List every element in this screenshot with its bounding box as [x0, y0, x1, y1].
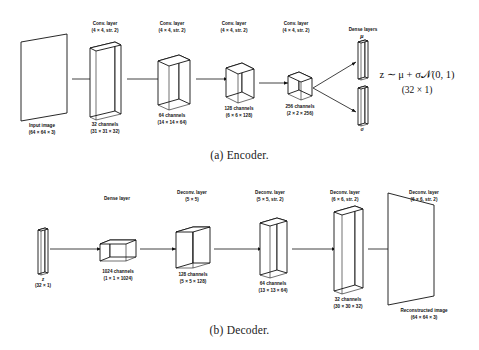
decoder-op-label-2-line1: Deconv. layer [177, 190, 207, 195]
encoder-shape-128-channels [226, 63, 254, 103]
encoder-op-label-1: Conv. layer (4 × 4, str. 2) [92, 21, 119, 34]
decoder-op-label-3-line2: (5 × 5, str. 2) [255, 197, 285, 204]
encoder-shape-mu-dense [358, 40, 368, 80]
latent-sampling-equation: z ∼ μ + σ𝒩(0, 1) (32 × 1) [379, 67, 454, 97]
decoder-tensor-label-output-line1: Reconstructed image [400, 308, 447, 313]
encoder-op-label-1-line2: (4 × 4, str. 2) [92, 28, 119, 35]
decoder-diagram [38, 193, 434, 305]
encoder-tensor-label-256-line2: (2 × 2 × 256) [285, 111, 314, 118]
encoder-shape-input-image [21, 34, 67, 121]
decoder-op-label-4-line1: Deconv. layer [330, 190, 360, 195]
encoder-tensor-label-64-line1: 64 channels [159, 113, 186, 118]
encoder-op-label-2: Conv. layer (4 × 4, str. 2) [159, 21, 186, 34]
encoder-fan-upper [313, 62, 356, 88]
encoder-op-label-1-line1: Conv. layer [93, 21, 118, 26]
decoder-op-label-2-line2: (5 × 5) [177, 197, 207, 204]
decoder-shape-32-channels [334, 206, 363, 294]
decoder-tensor-label-1024-line2: (1 × 1 × 1024) [102, 276, 134, 283]
decoder-op-label-3: Deconv. layer (5 × 5, str. 2) [255, 190, 285, 203]
sigma-symbol-label: σ [360, 126, 363, 132]
encoder-tensor-label-input-line2: (64 × 64 × 3) [29, 130, 56, 137]
decoder-shape-reconstructed-image [388, 193, 434, 305]
decoder-shape-z [38, 228, 48, 275]
decoder-op-label-dense-line1: Dense layer [104, 196, 130, 201]
decoder-shape-1024-channels [100, 240, 136, 261]
encoder-op-label-4-line1: Conv. layer [284, 21, 309, 26]
encoder-shape-32-channels [90, 42, 121, 120]
encoder-op-label-4: Conv. layer (4 × 4, str. 2) [283, 21, 310, 34]
caption-decoder: (b) Decoder. [0, 324, 479, 336]
decoder-op-label-4-line2: (6 × 6, str. 2) [330, 197, 360, 204]
encoder-tensor-label-128-line1: 128 channels [224, 106, 253, 111]
decoder-tensor-label-1024-line1: 1024 channels [102, 269, 134, 274]
encoder-op-label-3: Conv. layer (4 × 4, str. 2) [221, 21, 248, 34]
decoder-op-label-2: Deconv. layer (5 × 5) [177, 190, 207, 203]
encoder-op-label-3-line1: Conv. layer [222, 21, 247, 26]
encoder-tensor-label-128-line2: (6 × 6 × 128) [224, 113, 253, 120]
encoder-tensor-label-32-line2: (31 × 31 × 32) [90, 129, 119, 136]
latent-sampling-equation-main: z ∼ μ + σ𝒩(0, 1) [379, 69, 454, 80]
architecture-diagram [0, 0, 479, 350]
decoder-z-symbol-label: z [42, 276, 44, 282]
decoder-tensor-label-128-line1: 128 channels [178, 272, 207, 277]
decoder-tensor-label-64-line2: (13 × 13 × 64) [258, 288, 287, 295]
encoder-shape-256-channels [288, 72, 312, 100]
mu-symbol-label: μ [360, 33, 363, 39]
decoder-tensor-label-64-line1: 64 channels [260, 281, 287, 286]
encoder-tensor-label-64: 64 channels (14 × 14 × 64) [157, 113, 186, 126]
encoder-op-label-2-line1: Conv. layer [160, 21, 185, 26]
decoder-tensor-label-32-line1: 32 channels [335, 297, 362, 302]
decoder-shape-128-channels [176, 227, 210, 268]
decoder-op-label-5-line2: (6 × 6, str. 2) [409, 197, 439, 204]
decoder-op-label-5: Deconv. layer (6 × 6, str. 2) [409, 190, 439, 203]
decoder-tensor-label-128: 128 channels (5 × 5 × 128) [178, 272, 207, 285]
encoder-op-label-2-line2: (4 × 4, str. 2) [159, 28, 186, 35]
decoder-shape-64-channels [260, 218, 287, 278]
caption-encoder: (a) Encoder. [0, 149, 479, 161]
figure-container: Conv. layer (4 × 4, str. 2) Conv. layer … [0, 0, 479, 350]
encoder-diagram [21, 34, 368, 126]
encoder-tensor-label-256-line1: 256 channels [285, 104, 314, 109]
decoder-tensor-label-32: 32 channels (30 × 30 × 32) [333, 297, 362, 310]
decoder-op-label-5-line1: Deconv. layer [409, 190, 439, 195]
encoder-shape-sigma-dense [358, 86, 368, 126]
encoder-tensor-label-256: 256 channels (2 × 2 × 256) [285, 104, 314, 117]
encoder-op-label-dense-line1: Dense layers [349, 27, 378, 32]
encoder-tensor-label-32-line1: 32 channels [92, 122, 119, 127]
encoder-tensor-label-64-line2: (14 × 14 × 64) [157, 120, 186, 127]
decoder-tensor-label-128-line2: (5 × 5 × 128) [178, 279, 207, 286]
encoder-tensor-label-input-line1: Input image [29, 123, 55, 128]
decoder-tensor-label-output: Reconstructed image (64 × 64 × 3) [400, 308, 447, 321]
decoder-op-label-3-line1: Deconv. layer [255, 190, 285, 195]
latent-sampling-equation-dims: (32 × 1) [379, 83, 454, 97]
encoder-op-label-4-line2: (4 × 4, str. 2) [283, 28, 310, 35]
decoder-tensor-label-64: 64 channels (13 × 13 × 64) [258, 281, 287, 294]
decoder-tensor-label-output-line2: (64 × 64 × 3) [400, 315, 447, 322]
decoder-tensor-label-32-line2: (30 × 30 × 32) [333, 304, 362, 311]
encoder-tensor-label-32: 32 channels (31 × 31 × 32) [90, 122, 119, 135]
decoder-op-label-4: Deconv. layer (6 × 6, str. 2) [330, 190, 360, 203]
encoder-shape-64-channels [158, 55, 190, 110]
encoder-fan-lower [313, 88, 356, 112]
encoder-tensor-label-128: 128 channels (6 × 6 × 128) [224, 106, 253, 119]
decoder-op-label-dense: Dense layer [104, 196, 130, 203]
encoder-op-label-3-line2: (4 × 4, str. 2) [221, 28, 248, 35]
decoder-tensor-label-z-dims: (32 × 1) [35, 283, 51, 288]
decoder-tensor-label-1024: 1024 channels (1 × 1 × 1024) [102, 269, 134, 282]
encoder-tensor-label-input: Input image (64 × 64 × 3) [29, 123, 56, 136]
decoder-tensor-label-z: (32 × 1) [35, 283, 51, 290]
